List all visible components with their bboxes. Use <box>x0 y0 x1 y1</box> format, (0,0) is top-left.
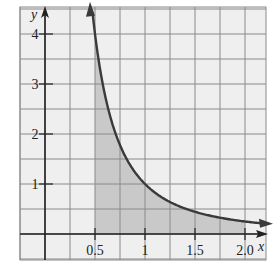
y-tick-label: 2 <box>32 127 39 142</box>
x-tick-label: 1 <box>142 243 149 258</box>
x-tick-label: 1.5 <box>186 243 204 258</box>
x-tick-label: 0.5 <box>86 243 104 258</box>
x-axis-label: x <box>257 239 265 254</box>
y-tick-label: 1 <box>32 177 39 192</box>
y-tick-label: 3 <box>32 77 39 92</box>
chart: 0.511.52.01234 x y <box>0 0 274 268</box>
y-tick-label: 4 <box>32 27 39 42</box>
x-tick-label: 2.0 <box>236 243 254 258</box>
y-axis-label: y <box>29 7 38 22</box>
